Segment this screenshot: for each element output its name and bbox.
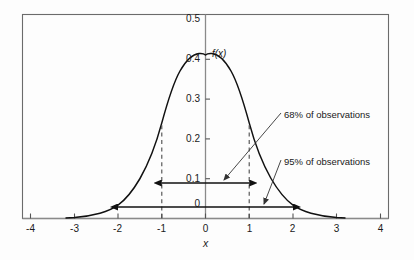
normal-distribution-figure: 0.5 0.4 0.3 0.2 0.1 0 f(x) -4 -3 -2 -1 0… [0, 0, 414, 260]
x-tick-label-0: 0 [189, 224, 222, 234]
fx-curve-label: f(x) [212, 49, 226, 59]
annotation-68-percent: 68% of observations [284, 110, 370, 120]
x-tick-label-2: 2 [276, 224, 309, 234]
y-tick-label-0: 0 [166, 199, 200, 209]
x-tick-label-minus-3: -3 [58, 224, 91, 234]
y-tick-label-0-4: 0.4 [166, 54, 200, 64]
x-axis-title: x [189, 238, 222, 249]
chart-canvas [0, 0, 414, 260]
y-tick-label-0-5: 0.5 [166, 14, 200, 24]
leader-line-95 [264, 160, 281, 204]
x-tick-label-minus-4: -4 [14, 224, 47, 234]
y-tick-label-0-1: 0.1 [166, 174, 200, 184]
x-tick-label-1: 1 [233, 224, 266, 234]
x-tick-label-minus-2: -2 [101, 224, 134, 234]
x-tick-label-3: 3 [320, 224, 353, 234]
leader-line-68 [224, 113, 281, 180]
x-tick-label-4: 4 [364, 224, 397, 234]
x-tick-label-minus-1: -1 [145, 224, 178, 234]
annotation-95-percent: 95% of observations [284, 157, 370, 167]
y-tick-label-0-2: 0.2 [166, 134, 200, 144]
y-axis-ticks [206, 59, 211, 178]
y-tick-label-0-3: 0.3 [166, 94, 200, 104]
